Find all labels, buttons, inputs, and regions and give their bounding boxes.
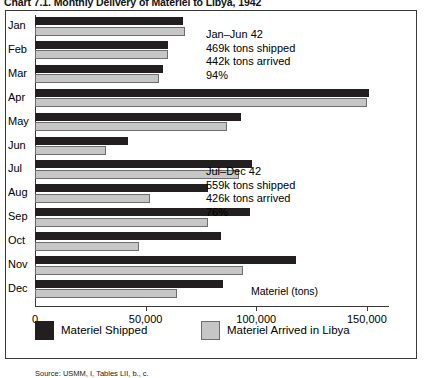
category-label-nov: Nov	[8, 259, 38, 270]
chart-title: Chart 7.1. Monthly Delivery of Materiel …	[4, 0, 261, 8]
bar-aug-arrived	[35, 194, 150, 203]
category-label-apr: Apr	[8, 92, 38, 103]
category-label-jan: Jan	[8, 20, 38, 31]
bar-oct-arrived	[35, 242, 139, 251]
bar-may-arrived	[35, 122, 227, 131]
bar-jan-shipped	[35, 17, 183, 25]
bar-feb-shipped	[35, 41, 168, 49]
bar-mar-shipped	[35, 65, 163, 73]
bar-nov-shipped	[35, 256, 296, 264]
bar-may-shipped	[35, 113, 241, 121]
chart-frame: JanFebMarAprMayJunJulAugSepOctNovDec 050…	[5, 10, 417, 359]
category-label-jun: Jun	[8, 140, 38, 151]
x-tick-100000	[256, 306, 257, 311]
bar-jun-arrived	[35, 146, 106, 155]
legend-label: Materiel Shipped	[61, 324, 147, 336]
bar-apr-arrived	[35, 98, 367, 107]
chart-legend: Materiel ShippedMateriel Arrived in Liby…	[6, 321, 418, 345]
source-note: Source: USMM, I, Tables LII, b., c.	[35, 369, 149, 378]
legend-swatch-shipped	[35, 321, 54, 340]
bar-oct-shipped	[35, 232, 221, 240]
x-tick-50000	[146, 306, 147, 311]
legend-label: Materiel Arrived in Libya	[227, 324, 350, 336]
annotation-line: 76%	[206, 206, 295, 220]
x-axis-caption: Materiel (tons)	[251, 285, 318, 297]
category-label-dec: Dec	[8, 283, 38, 294]
bar-dec-arrived	[35, 289, 177, 298]
category-label-aug: Aug	[8, 187, 38, 198]
x-axis-line	[35, 306, 389, 307]
bar-mar-arrived	[35, 74, 159, 83]
annotation-line: 94%	[206, 69, 295, 83]
category-label-sep: Sep	[8, 211, 38, 222]
bar-aug-shipped	[35, 184, 208, 192]
bar-feb-arrived	[35, 50, 168, 59]
bar-nov-arrived	[35, 266, 243, 275]
annotation-line: Jan–Jun 42	[206, 28, 295, 42]
category-label-jul: Jul	[8, 163, 38, 174]
category-label-may: May	[8, 116, 38, 127]
plot-area: JanFebMarAprMayJunJulAugSepOctNovDec 050…	[6, 11, 418, 360]
annotation-line: 559k tons shipped	[206, 179, 295, 193]
annotation-line: 442k tons arrived	[206, 55, 295, 69]
annotation-jul-dec: Jul–Dec 42559k tons shipped426k tons arr…	[206, 165, 295, 219]
category-label-mar: Mar	[8, 68, 38, 79]
bar-jan-arrived	[35, 27, 185, 36]
x-tick-150000	[367, 306, 368, 311]
annotation-line: 469k tons shipped	[206, 42, 295, 56]
annotation-line: Jul–Dec 42	[206, 165, 295, 179]
legend-swatch-arrived	[201, 321, 220, 340]
bar-apr-shipped	[35, 89, 369, 97]
bar-dec-shipped	[35, 280, 223, 288]
annotation-jan-jun: Jan–Jun 42469k tons shipped442k tons arr…	[206, 28, 295, 82]
annotation-line: 426k tons arrived	[206, 192, 295, 206]
category-label-feb: Feb	[8, 44, 38, 55]
category-label-oct: Oct	[8, 235, 38, 246]
bar-sep-arrived	[35, 218, 208, 227]
bar-jun-shipped	[35, 137, 128, 145]
